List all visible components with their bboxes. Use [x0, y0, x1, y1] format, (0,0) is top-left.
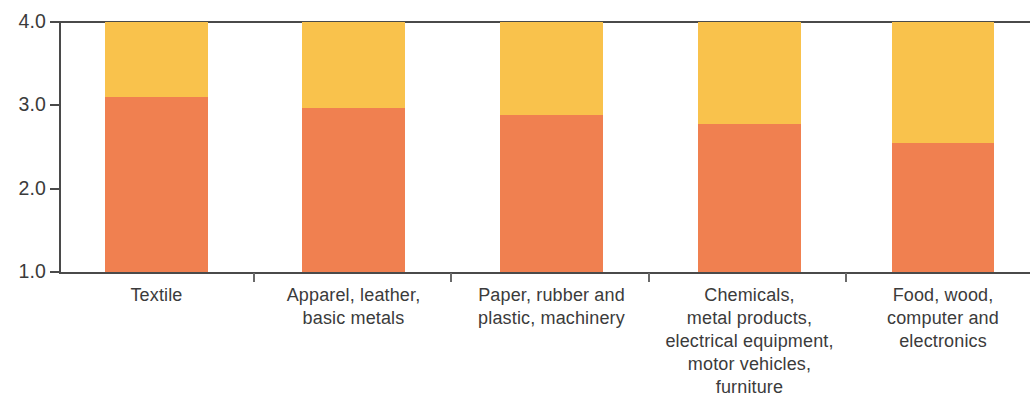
y-axis-tick-label: 2.0	[0, 179, 46, 199]
y-axis-tick	[50, 188, 60, 190]
stacked-bar-chart: 4.03.02.01.0 TextileApparel, leather,bas…	[0, 0, 1030, 411]
bar-5	[892, 22, 994, 272]
category-label-line: basic metals	[246, 307, 461, 330]
category-label-line: plastic, machinery	[444, 307, 659, 330]
bar-segment-upper	[892, 22, 994, 143]
x-axis-baseline	[59, 272, 1030, 274]
bar-4	[698, 22, 801, 272]
category-label-2: Apparel, leather,basic metals	[246, 284, 461, 330]
bar-3	[500, 22, 603, 272]
category-label-line: Food, wood,	[836, 284, 1030, 307]
y-axis-tick	[50, 21, 61, 23]
category-label-line: Paper, rubber and	[444, 284, 659, 307]
category-label-line: Apparel, leather,	[246, 284, 461, 307]
x-axis-tick	[648, 273, 650, 282]
category-label-1: Textile	[49, 284, 264, 307]
bar-2	[302, 22, 405, 272]
bar-segment-upper	[105, 22, 208, 97]
x-axis-tick	[845, 273, 847, 282]
bar-1	[105, 22, 208, 272]
y-axis-tick	[50, 104, 60, 106]
x-axis-tick	[253, 273, 255, 282]
category-label-line: metal products,	[642, 307, 857, 330]
category-label-4: Chemicals,metal products,electrical equi…	[642, 284, 857, 399]
bar-segment-lower	[698, 124, 801, 272]
bar-segment-lower	[892, 143, 994, 272]
bar-segment-lower	[105, 97, 208, 272]
category-label-3: Paper, rubber andplastic, machinery	[444, 284, 659, 330]
category-label-line: furniture	[642, 376, 857, 399]
bar-segment-upper	[302, 22, 405, 108]
category-label-line: motor vehicles,	[642, 353, 857, 376]
category-label-line: electronics	[836, 330, 1030, 353]
y-axis-line	[59, 22, 61, 273]
category-label-line: Chemicals,	[642, 284, 857, 307]
bar-segment-upper	[500, 22, 603, 115]
y-axis-tick-label: 1.0	[0, 262, 46, 282]
y-axis-tick-label: 4.0	[0, 12, 46, 32]
category-label-line: computer and	[836, 307, 1030, 330]
x-axis-tick	[450, 273, 452, 282]
y-axis-tick-label: 3.0	[0, 95, 46, 115]
category-label-line: Textile	[49, 284, 264, 307]
category-label-line: electrical equipment,	[642, 330, 857, 353]
bar-segment-lower	[500, 115, 603, 272]
bar-segment-upper	[698, 22, 801, 124]
category-label-5: Food, wood,computer andelectronics	[836, 284, 1030, 353]
bar-segment-lower	[302, 108, 405, 272]
